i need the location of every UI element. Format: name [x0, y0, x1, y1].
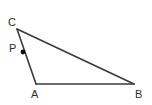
geometry-figure: C P A B: [0, 0, 152, 105]
point-label-p: P: [9, 43, 16, 54]
point-p-marker: [21, 50, 26, 55]
vertex-label-c: C: [8, 17, 16, 28]
triangle-diagram-canvas: [0, 0, 152, 105]
vertex-label-b: B: [135, 89, 142, 100]
vertex-label-a: A: [31, 89, 38, 100]
